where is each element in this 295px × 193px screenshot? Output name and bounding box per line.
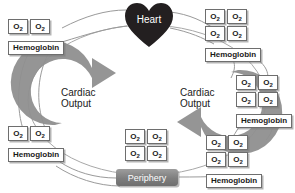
o2-box: O2 <box>227 26 247 41</box>
periphery-node: Periphery <box>116 169 178 186</box>
cardiac-output-right-label: Cardiac Output <box>180 87 214 109</box>
o2-row: O2 O2 <box>125 129 169 146</box>
o2-row: O2 O2 <box>8 19 64 36</box>
o2-box: O2 <box>8 126 28 141</box>
o2-box: O2 <box>228 152 248 167</box>
molecule-group-bottom-left: O2 O2 Hemoglobin <box>8 126 64 162</box>
hemoglobin-box: Hemoglobin <box>206 174 262 188</box>
molecule-group-top-left: O2 O2 Hemoglobin <box>8 19 64 55</box>
o2-box: O2 <box>8 19 28 34</box>
o2-row: O2 O2 <box>205 9 261 26</box>
o2-row: O2 O2 <box>206 152 262 169</box>
o2-row: O2 O2 <box>8 126 64 143</box>
o2-box: O2 <box>206 135 226 150</box>
o2-row: O2 O2 <box>236 92 292 109</box>
o2-box: O2 <box>205 26 225 41</box>
o2-box: O2 <box>30 126 50 141</box>
o2-row: O2 O2 <box>236 75 292 92</box>
molecule-group-bottom-right: O2 O2 O2 O2 Hemoglobin <box>206 135 262 188</box>
o2-row: O2 O2 <box>206 135 262 152</box>
hemoglobin-box: Hemoglobin <box>236 114 292 128</box>
circulation-diagram: Cardiac Output Cardiac Output Heart Peri… <box>0 0 295 193</box>
hemoglobin-box: Hemoglobin <box>8 148 64 162</box>
o2-box: O2 <box>147 146 167 161</box>
molecule-group-middle-right: O2 O2 O2 O2 Hemoglobin <box>236 75 292 128</box>
o2-box: O2 <box>227 9 247 24</box>
o2-box: O2 <box>205 9 225 24</box>
o2-box: O2 <box>236 92 256 107</box>
o2-box: O2 <box>228 135 248 150</box>
o2-box: O2 <box>125 146 145 161</box>
hemoglobin-box: Hemoglobin <box>8 41 64 55</box>
o2-box: O2 <box>206 152 226 167</box>
o2-box: O2 <box>147 129 167 144</box>
heart-label: Heart <box>124 14 174 25</box>
o2-box: O2 <box>258 92 278 107</box>
o2-row: O2 O2 <box>205 26 261 43</box>
o2-box: O2 <box>30 19 50 34</box>
heart-shape <box>124 2 174 48</box>
molecule-group-center-free: O2 O2 O2 O2 <box>125 129 169 163</box>
hemoglobin-box: Hemoglobin <box>205 48 261 62</box>
molecule-group-top-right: O2 O2 O2 O2 Hemoglobin <box>205 9 261 62</box>
o2-box: O2 <box>125 129 145 144</box>
o2-row: O2 O2 <box>125 146 169 163</box>
cardiac-output-left-label: Cardiac Output <box>61 87 95 109</box>
periphery-label: Periphery <box>128 173 167 183</box>
o2-box: O2 <box>258 75 278 90</box>
o2-box: O2 <box>236 75 256 90</box>
